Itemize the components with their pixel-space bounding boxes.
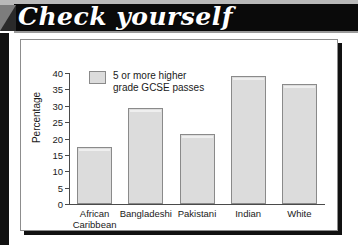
- y-axis-tick-label: 5: [21, 184, 63, 193]
- y-axis-tick: [65, 106, 70, 107]
- y-axis-tick: [65, 188, 70, 189]
- banner-underline: [14, 31, 358, 33]
- x-axis-tick-label: White: [268, 208, 331, 219]
- page-title: Check yourself: [18, 1, 233, 32]
- chart-frame-shadow-bottom: [24, 231, 342, 235]
- y-axis-tick-label: 15: [21, 151, 63, 160]
- chart-frame: Percentage 0510152025303540 African Cari…: [20, 39, 338, 231]
- y-axis-tick-label: 40: [21, 69, 63, 78]
- bar: [231, 76, 266, 204]
- y-axis-tick: [65, 139, 70, 140]
- y-axis-tick: [65, 122, 70, 123]
- legend-label: 5 or more higher grade GCSE passes: [113, 70, 204, 93]
- y-axis-tick-label: 10: [21, 167, 63, 176]
- left-margin-gap: [9, 33, 12, 245]
- bar-chart: Percentage 0510152025303540 African Cari…: [21, 40, 337, 230]
- bar: [282, 84, 317, 204]
- bar: [77, 147, 112, 204]
- banner-corner-wedge: [0, 5, 16, 31]
- bar: [128, 108, 163, 204]
- y-axis-tick-label: 30: [21, 102, 63, 111]
- y-axis-tick: [65, 89, 70, 90]
- x-axis-line: [69, 204, 325, 205]
- y-axis-tick: [65, 73, 70, 74]
- legend-swatch-icon: [89, 71, 106, 84]
- y-axis-tick-label: 25: [21, 118, 63, 127]
- chart-legend: 5 or more higher grade GCSE passes: [89, 70, 204, 93]
- chart-frame-shadow-right: [338, 43, 342, 235]
- y-axis-tick-label: 20: [21, 135, 63, 144]
- y-axis-tick-label: 35: [21, 85, 63, 94]
- y-axis-tick: [65, 171, 70, 172]
- y-axis-tick-label: 0: [21, 200, 63, 209]
- y-axis-tick: [65, 204, 70, 205]
- left-margin-rule: [0, 33, 9, 245]
- header-banner: Check yourself: [0, 0, 358, 33]
- bar: [180, 134, 215, 204]
- y-axis-tick: [65, 155, 70, 156]
